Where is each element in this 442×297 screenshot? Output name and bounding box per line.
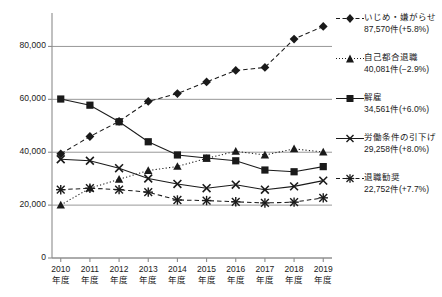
x-tick-suffix: 年度 bbox=[192, 275, 222, 286]
y-axis-tick-label: 20,000 bbox=[2, 199, 46, 209]
asterisk-marker bbox=[202, 196, 211, 205]
series-line bbox=[61, 188, 324, 203]
y-axis-tick-label: 40,000 bbox=[2, 146, 46, 156]
diamond-marker bbox=[173, 89, 182, 98]
triangle-marker-icon bbox=[336, 53, 364, 64]
legend-item-rodo-joken-hikisage[interactable]: 労働条件の引下げ 29,258件(+8.0%) bbox=[336, 132, 442, 156]
x-tick-suffix: 年度 bbox=[308, 275, 338, 286]
x-tick-suffix: 年度 bbox=[46, 275, 76, 286]
x-tick-suffix: 年度 bbox=[162, 275, 192, 286]
x-tick-year: 2017 bbox=[250, 264, 280, 275]
chart-legend: いじめ・嫌がらせ 87,570件(+5.8%) 自己都合退職 40,081件(−… bbox=[336, 0, 442, 297]
x-tick-year: 2010 bbox=[46, 264, 76, 275]
plot-area: 020,00040,00060,00080,0002010年度2011年度201… bbox=[0, 0, 340, 297]
asterisk-marker bbox=[289, 197, 298, 206]
square-marker bbox=[261, 166, 268, 173]
x-axis-tick-label: 2016年度 bbox=[221, 264, 251, 286]
asterisk-marker bbox=[260, 198, 269, 207]
triangle-marker bbox=[57, 201, 65, 209]
square-marker bbox=[86, 102, 93, 109]
legend-value: 22,752件(+7.7%) bbox=[364, 184, 442, 196]
x-tick-suffix: 年度 bbox=[279, 275, 309, 286]
triangle-marker bbox=[173, 162, 181, 170]
y-axis-tick-label: 0 bbox=[2, 252, 46, 262]
triangle-marker bbox=[290, 145, 298, 153]
x-tick-suffix: 年度 bbox=[221, 275, 251, 286]
chart-container: 020,00040,00060,00080,0002010年度2011年度201… bbox=[0, 0, 442, 297]
cross-marker-icon bbox=[336, 133, 364, 144]
square-marker bbox=[174, 151, 181, 158]
square-marker bbox=[320, 163, 327, 170]
legend-label: いじめ・嫌がらせ bbox=[364, 12, 436, 24]
x-axis-tick-label: 2010年度 bbox=[46, 264, 76, 286]
triangle-marker bbox=[115, 175, 123, 183]
legend-item-jiko-tsugo-taishoku[interactable]: 自己都合退職 40,081件(−2.9%) bbox=[336, 52, 442, 76]
diamond-marker bbox=[202, 78, 211, 87]
x-tick-suffix: 年度 bbox=[104, 275, 134, 286]
diamond-marker bbox=[231, 66, 240, 75]
legend-item-taishoku-kansho[interactable]: 退職勧奨 22,752件(+7.7%) bbox=[336, 172, 442, 196]
square-marker-icon bbox=[336, 93, 364, 104]
x-tick-year: 2016 bbox=[221, 264, 251, 275]
series-line bbox=[61, 149, 324, 205]
square-marker bbox=[115, 118, 122, 125]
x-axis-tick-label: 2014年度 bbox=[162, 264, 192, 286]
diamond-marker bbox=[86, 132, 95, 141]
legend-item-kaiko[interactable]: 解雇 34,561件(+6.0%) bbox=[336, 92, 442, 116]
legend-item-ijime[interactable]: いじめ・嫌がらせ 87,570件(+5.8%) bbox=[336, 12, 442, 36]
asterisk-marker bbox=[144, 187, 153, 196]
cross-marker bbox=[115, 164, 123, 172]
asterisk-marker bbox=[114, 185, 123, 194]
x-tick-suffix: 年度 bbox=[133, 275, 163, 286]
x-axis-tick-label: 2013年度 bbox=[133, 264, 163, 286]
diamond-marker bbox=[290, 35, 299, 44]
y-axis-tick-label: 60,000 bbox=[2, 93, 46, 103]
legend-label: 労働条件の引下げ bbox=[364, 132, 436, 144]
x-tick-suffix: 年度 bbox=[75, 275, 105, 286]
x-axis-tick-label: 2018年度 bbox=[279, 264, 309, 286]
diamond-marker bbox=[144, 97, 153, 106]
asterisk-marker-icon bbox=[336, 173, 364, 184]
triangle-marker bbox=[144, 166, 152, 174]
x-tick-suffix: 年度 bbox=[250, 275, 280, 286]
square-marker bbox=[203, 154, 210, 161]
square-marker bbox=[57, 95, 64, 102]
x-axis-tick-label: 2012年度 bbox=[104, 264, 134, 286]
legend-label: 自己都合退職 bbox=[364, 52, 418, 64]
cross-marker bbox=[319, 177, 327, 185]
x-axis-tick-label: 2015年度 bbox=[192, 264, 222, 286]
x-axis-tick-label: 2019年度 bbox=[308, 264, 338, 286]
asterisk-marker bbox=[173, 195, 182, 204]
legend-value: 34,561件(+6.0%) bbox=[364, 104, 442, 116]
legend-value: 29,258件(+8.0%) bbox=[364, 144, 442, 156]
triangle-marker bbox=[319, 148, 327, 156]
asterisk-marker bbox=[319, 193, 328, 202]
x-tick-year: 2012 bbox=[104, 264, 134, 275]
x-tick-year: 2015 bbox=[192, 264, 222, 275]
x-tick-year: 2019 bbox=[308, 264, 338, 275]
diamond-marker bbox=[319, 22, 328, 31]
x-axis-tick-label: 2017年度 bbox=[250, 264, 280, 286]
x-tick-year: 2014 bbox=[162, 264, 192, 275]
x-tick-year: 2018 bbox=[279, 264, 309, 275]
triangle-marker bbox=[232, 147, 240, 155]
x-tick-year: 2011 bbox=[75, 264, 105, 275]
asterisk-marker bbox=[56, 185, 65, 194]
diamond-marker-icon bbox=[336, 13, 364, 24]
asterisk-marker bbox=[85, 184, 94, 193]
legend-label: 解雇 bbox=[364, 92, 382, 104]
legend-value: 87,570件(+5.8%) bbox=[364, 24, 442, 36]
series-line bbox=[61, 26, 324, 153]
x-tick-year: 2013 bbox=[133, 264, 163, 275]
square-marker bbox=[145, 138, 152, 145]
legend-label: 退職勧奨 bbox=[364, 172, 400, 184]
y-axis-tick-label: 80,000 bbox=[2, 40, 46, 50]
x-axis-tick-label: 2011年度 bbox=[75, 264, 105, 286]
asterisk-marker bbox=[231, 197, 240, 206]
legend-value: 40,081件(−2.9%) bbox=[364, 64, 442, 76]
square-marker bbox=[232, 157, 239, 164]
series-line bbox=[61, 99, 324, 172]
chart-svg bbox=[0, 0, 340, 297]
square-marker bbox=[290, 168, 297, 175]
